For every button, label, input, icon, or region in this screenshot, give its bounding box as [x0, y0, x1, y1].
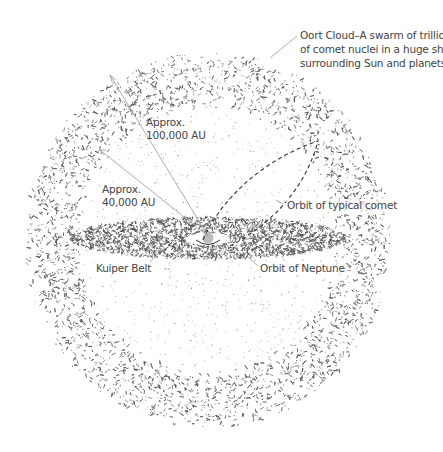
outer-distance-line2: 100,000 AU	[146, 129, 206, 142]
oort-label-line1: Oort Cloud–A swarm of trillions	[300, 28, 443, 42]
oort-label-line3: surrounding Sun and planets.	[300, 56, 443, 70]
inner-distance-label: Approx. 40,000 AU	[102, 183, 155, 209]
outer-distance-label: Approx. 100,000 AU	[146, 116, 206, 142]
outer-distance-line1: Approx.	[146, 116, 206, 129]
neptune-orbit-label: Orbit of Neptune	[259, 262, 346, 275]
inner-distance-line1: Approx.	[102, 183, 155, 196]
comet-orbit-label: Orbit of typical comet	[286, 199, 398, 212]
oort-label-line2: of comet nuclei in a huge shell	[300, 42, 443, 56]
inner-distance-line2: 40,000 AU	[102, 196, 155, 209]
oort-cloud-label: Oort Cloud–A swarm of trillions of comet…	[300, 28, 443, 70]
kuiper-belt-label: Kuiper Belt	[95, 262, 152, 275]
